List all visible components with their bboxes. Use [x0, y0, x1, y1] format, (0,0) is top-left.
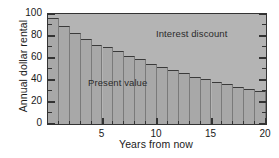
y-axis-title: Annual dollar rental [17, 0, 29, 136]
y-tick [48, 101, 55, 103]
y-tick-label: 0 [14, 118, 42, 128]
y-tick-label: 80 [14, 30, 42, 40]
x-tick [254, 121, 255, 124]
y-tick-right [259, 35, 266, 37]
x-tick [134, 121, 135, 124]
y-tick [48, 46, 52, 47]
x-tick [156, 118, 158, 124]
x-tick [123, 121, 124, 124]
x-tick [69, 121, 70, 124]
y-tick-right [262, 68, 266, 69]
x-tick [112, 121, 113, 124]
x-tick [58, 121, 59, 124]
y-tick-label: 100 [14, 8, 42, 18]
x-tick [145, 121, 146, 124]
y-tick-right [262, 112, 266, 113]
y-tick-right [262, 90, 266, 91]
bar-present-value [157, 67, 168, 124]
y-tick [48, 123, 55, 125]
y-tick-right [262, 46, 266, 47]
x-tick [232, 121, 233, 124]
bar-present-value [59, 26, 70, 124]
x-tick [189, 121, 190, 124]
y-tick [48, 68, 52, 69]
y-tick [48, 35, 55, 37]
y-tick-right [262, 24, 266, 25]
y-tick [48, 79, 55, 81]
y-tick [48, 57, 55, 59]
x-tick [265, 118, 267, 124]
bar-present-value [168, 70, 179, 124]
annotation-present-value: Present value [88, 77, 147, 88]
x-tick [178, 121, 179, 124]
bar-present-value [70, 33, 81, 124]
x-tick [102, 118, 104, 124]
annotation-interest-discount: Interest discount [156, 28, 227, 39]
bar-present-value [222, 84, 233, 124]
y-tick-right [259, 13, 266, 15]
bar-present-value [135, 59, 146, 124]
bar-present-value [212, 82, 223, 124]
y-tick-label: 40 [14, 74, 42, 84]
y-tick [48, 24, 52, 25]
plot-area: Interest discount Present value [47, 13, 267, 125]
bar-present-value [146, 64, 157, 125]
y-tick-right [259, 57, 266, 59]
x-tick [243, 121, 244, 124]
bar-present-value [179, 73, 190, 124]
bar-present-value [233, 87, 244, 124]
y-tick [48, 90, 52, 91]
x-tick [91, 121, 92, 124]
y-tick-label: 20 [14, 96, 42, 106]
bar-present-value [244, 89, 255, 124]
y-tick [48, 112, 52, 113]
bar-present-value [190, 77, 201, 124]
x-tick [211, 118, 213, 124]
x-tick [80, 121, 81, 124]
x-axis-title: Years from now [47, 138, 265, 150]
x-tick [200, 121, 201, 124]
y-tick-right [259, 79, 266, 81]
y-tick-right [259, 101, 266, 103]
y-tick-label: 60 [14, 52, 42, 62]
y-tick [48, 13, 55, 15]
x-tick [167, 121, 168, 124]
bar-present-value [124, 56, 135, 124]
chart-figure: Annual dollar rental Interest discount P… [0, 0, 279, 158]
x-tick [221, 121, 222, 124]
